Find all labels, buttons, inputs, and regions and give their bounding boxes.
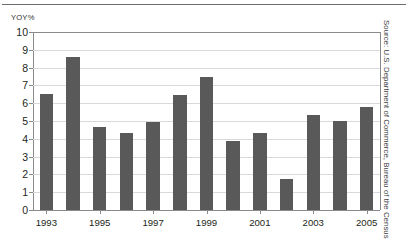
y-axis-tick-label: 3 — [22, 151, 28, 163]
x-axis-tick-label: 1993 — [36, 217, 57, 228]
x-axis-tick-label: 1995 — [89, 217, 110, 228]
y-axis-tick — [29, 157, 33, 158]
bar — [333, 121, 347, 210]
bar — [146, 122, 160, 210]
x-axis-tick — [260, 210, 261, 214]
x-axis-tick-label: 2001 — [249, 217, 270, 228]
y-axis-tick-label: 5 — [22, 115, 28, 127]
y-axis-tick-label: 8 — [22, 62, 28, 74]
bar — [280, 179, 294, 210]
x-axis-tick-label: 1999 — [196, 217, 217, 228]
y-axis-tick-label: 9 — [22, 44, 28, 56]
y-axis-tick — [29, 192, 33, 193]
chart-figure: YOY% 012345678910 1993199519971999200120… — [0, 0, 413, 245]
x-axis-tick — [367, 210, 368, 214]
x-axis-tick-label: 1997 — [142, 217, 163, 228]
bar — [360, 107, 374, 210]
y-axis-tick-label: 4 — [22, 133, 28, 145]
bar — [253, 133, 267, 210]
y-axis-tick — [29, 174, 33, 175]
source-attribution-text: Source: U.S. Department of Commerce, Bur… — [382, 20, 391, 239]
plot-area: 012345678910 199319951997199920012003200… — [33, 32, 380, 210]
y-axis-tick-label: 7 — [22, 79, 28, 91]
x-axis-tick-label: 2005 — [356, 217, 377, 228]
x-axis-tick-label: 2003 — [303, 217, 324, 228]
y-axis-tick — [29, 68, 33, 69]
y-axis-unit-caption: YOY% — [11, 13, 35, 22]
gridline — [33, 50, 380, 51]
bar — [307, 115, 321, 210]
y-axis-tick-label: 6 — [22, 97, 28, 109]
header-divider-rule — [2, 4, 406, 5]
y-axis-tick — [29, 85, 33, 86]
y-axis-tick — [29, 121, 33, 122]
plot-top-border — [33, 32, 380, 33]
y-axis-tick-label: 1 — [22, 186, 28, 198]
y-axis-tick-label: 2 — [22, 168, 28, 180]
y-axis-tick — [29, 139, 33, 140]
bar — [200, 77, 214, 211]
plot-right-border — [380, 32, 381, 210]
bar — [93, 127, 107, 210]
x-axis-tick — [100, 210, 101, 214]
x-axis-tick — [46, 210, 47, 214]
bar — [40, 94, 54, 210]
bar — [120, 133, 134, 210]
bar — [66, 57, 80, 210]
y-axis-tick — [29, 32, 33, 33]
x-axis-tick — [153, 210, 154, 214]
gridline — [33, 68, 380, 69]
y-axis-tick-label: 10 — [16, 26, 28, 38]
x-axis-tick — [207, 210, 208, 214]
y-axis-tick — [29, 103, 33, 104]
y-axis-tick-label: 0 — [22, 204, 28, 216]
y-axis-tick — [29, 210, 33, 211]
x-axis-tick — [313, 210, 314, 214]
bar — [173, 95, 187, 210]
y-axis-tick — [29, 50, 33, 51]
bar — [226, 141, 240, 210]
